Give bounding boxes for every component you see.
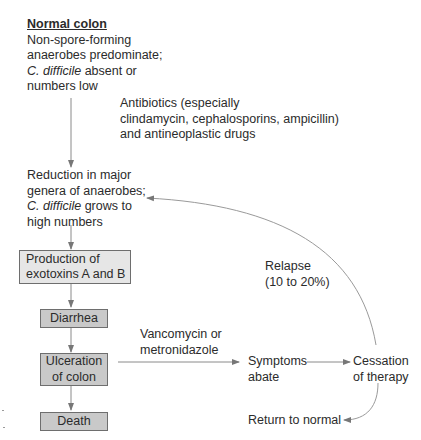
ulceration-box: Ulceration of colon xyxy=(40,353,108,386)
arrow-cessation-to-return xyxy=(344,383,378,420)
diarrhea-box: Diarrhea xyxy=(40,309,108,328)
production-box: Production of exotoxins A and B xyxy=(19,250,131,284)
cessation-node: Cessation of therapy xyxy=(353,354,409,385)
normal-colon-block: Normal colon Non-spore-forming anaerobes… xyxy=(27,17,163,95)
return-to-normal-node: Return to normal xyxy=(248,413,341,429)
normal-colon-line1: Non-spore-forming xyxy=(27,33,163,49)
relapse-label: Relapse (10 to 20%) xyxy=(265,259,330,290)
scan-artifact xyxy=(3,427,5,428)
reduction-block: Reduction in major genera of anaerobes; … xyxy=(27,168,146,230)
treatment-label: Vancomycin or metronidazole xyxy=(140,327,222,358)
normal-colon-line2: anaerobes predominate; xyxy=(27,48,163,64)
normal-colon-line3: C. difficile absent or xyxy=(27,64,163,80)
death-box: Death xyxy=(40,412,108,431)
normal-colon-line4: numbers low xyxy=(27,79,163,95)
organism-name: C. difficile xyxy=(27,199,81,213)
scan-artifact xyxy=(2,410,4,411)
arrow-relapse-curve xyxy=(147,198,376,345)
diagram-canvas: Normal colon Non-spore-forming anaerobes… xyxy=(0,0,421,440)
normal-colon-title: Normal colon xyxy=(27,17,163,33)
symptoms-node: Symptoms abate xyxy=(248,354,307,385)
organism-name: C. difficile xyxy=(27,64,81,78)
antibiotics-label: Antibiotics (especially clindamycin, cep… xyxy=(120,96,339,143)
